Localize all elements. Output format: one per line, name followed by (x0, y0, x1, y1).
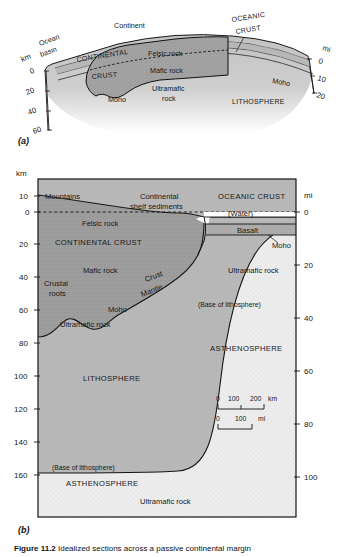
figure-caption-text: Idealized sections across a passive cont… (58, 544, 251, 553)
panel-b-label-felsic-rock: Felsic rock (82, 219, 118, 228)
panel-b-axis-right-tick-0: 0 (304, 208, 309, 217)
panel-a-axis-left-tick-60: 60 (31, 124, 42, 136)
panel-b-axis-left-tick-140: 140 (14, 438, 28, 447)
panel-a-axis-right-unit: mi (321, 43, 332, 54)
panel-b-label-moho-center: Moho (108, 305, 127, 314)
panel-b-axis-right-tick-60: 60 (304, 367, 313, 376)
panel-a-label-oceanic-crust-line1: OCEANIC (231, 11, 266, 23)
panel-b-axis-left-unit: km (16, 169, 27, 178)
panel-a-label-moho-left: Moho (108, 95, 126, 104)
panel-b-axis-left-tick-100: 100 (14, 372, 28, 381)
panel-b-axis-right-tick-20: 20 (304, 261, 313, 270)
panel-b-axis-right-tick-40: 40 (304, 314, 313, 323)
panel-b-diagram: km 10 0 20 40 60 80 100 120 140 160 mi 0… (0, 155, 345, 551)
panel-a-label-felsic-rock: Felsic rock (148, 49, 183, 58)
figure-caption-label: Figure 11.2 (14, 544, 56, 553)
panel-b-axis-left-tick-60: 60 (19, 306, 28, 315)
panel-b-axis-left-tick-120: 120 (14, 405, 28, 414)
scale-mi-tick-100: 100 (235, 415, 247, 422)
panel-b-label-mafic-rock: Mafic rock (83, 266, 118, 275)
panel-b-axis-left-tick-80: 80 (19, 339, 28, 348)
panel-a-label-lithosphere: LITHOSPHERE (232, 98, 285, 105)
panel-a-axis-left-tick-40: 40 (26, 105, 37, 117)
panel-b-axis-left: km 10 0 20 40 60 80 100 120 140 160 (14, 169, 40, 480)
scale-km-tick-0: 0 (216, 395, 220, 402)
panel-b-axis-left-tick-40: 40 (19, 273, 28, 282)
scale-mi-unit: mi (258, 415, 266, 422)
panel-b-label-water: (Water) (228, 209, 253, 218)
panel-b-axis-right: mi 0 20 40 60 80 100 (294, 191, 318, 482)
panel-b-label-continental-crust: CONTINENTAL CRUST (55, 238, 142, 247)
panel-b-label-base-of-lithosphere-left: (Base of lithosphere) (52, 464, 115, 472)
panel-b-label-continental-shelf-line2: shelf sediments (130, 202, 183, 211)
panel-a-axis-right-tick-20: 20 (315, 90, 326, 101)
scale-km-tick-200: 200 (250, 395, 262, 402)
figure-caption: Figure 11.2 Idealized sections across a … (0, 540, 345, 557)
panel-b-label-ultramafic-rock-upper: Ultramafic rock (228, 266, 279, 275)
panel-b-label-moho-right: Moho (272, 241, 291, 250)
panel-a-label-ultramafic-rock-line1: Ultramafic (152, 84, 185, 93)
panel-a-axis-left-tick-20: 20 (24, 85, 35, 97)
panel-b-axis-left-tick-160: 160 (14, 471, 28, 480)
panel-a-caption: (a) (18, 136, 29, 146)
panel-b-axis-right-tick-100: 100 (304, 473, 318, 482)
panel-b-label-lithosphere: LITHOSPHERE (83, 374, 140, 383)
panel-b-label-mountains: Mountains (45, 192, 80, 201)
panel-b-label-ultramafic-rock-bottom: Ultramafic rock (140, 497, 191, 506)
panel-b-label-oceanic-crust: OCEANIC CRUST (218, 192, 285, 201)
panel-b-label-continental-shelf-line1: Continental (140, 192, 179, 201)
panel-b-axis-right-tick-80: 80 (304, 420, 313, 429)
panel-a-axis-left-unit: km (19, 52, 32, 64)
panel-a-axis-right-tick-10: 10 (316, 73, 327, 84)
panel-b-label-crustal-roots-line1: Crustal (44, 279, 68, 288)
panel-b-axis-right-unit: mi (304, 191, 313, 200)
panel-b-label-basalt: Basalt (237, 226, 259, 235)
panel-b-label-asthenosphere-left: ASTHENOSPHERE (66, 479, 139, 488)
panel-a-label-continent: Continent (114, 21, 145, 30)
panel-b-axis-left-tick-10: 10 (19, 192, 28, 201)
panel-a-axis-right: mi 0 10 20 (307, 43, 332, 101)
panel-a-axis-left-tick-0: 0 (28, 66, 35, 76)
panel-b-axis-left-tick-20: 20 (19, 240, 28, 249)
scale-mi-tick-0: 0 (216, 415, 220, 422)
panel-b-axis-left-tick-0: 0 (25, 208, 30, 217)
panel-a-label-ultramafic-rock-line2: rock (162, 94, 176, 103)
panel-b-label-crustal-roots-line2: roots (49, 289, 66, 298)
panel-b-caption: (b) (18, 525, 30, 535)
panel-b-label-asthenosphere-right: ASTHENOSPHERE (210, 344, 283, 353)
panel-a-label-mafic-rock: Mafic rock (150, 66, 183, 75)
panel-a-axis-left: km 0 20 40 60 (19, 52, 52, 136)
scale-km-tick-100: 100 (228, 395, 240, 402)
panel-b-label-base-of-lithosphere-right: (Base of lithosphere) (198, 301, 261, 309)
panel-a-label-oceanic-crust-line2: CRUST (235, 24, 262, 35)
panel-a-axis-right-tick-0: 0 (317, 56, 324, 66)
scale-km-unit: km (268, 395, 277, 402)
panel-b-label-ultramafic-rock-mid: Ultramafic rock (60, 320, 111, 329)
panel-a-label-ocean-basin-line1: Ocean (38, 32, 61, 48)
panel-a-diagram: km 0 20 40 60 mi 0 10 20 Ocean basin Con… (0, 0, 345, 155)
